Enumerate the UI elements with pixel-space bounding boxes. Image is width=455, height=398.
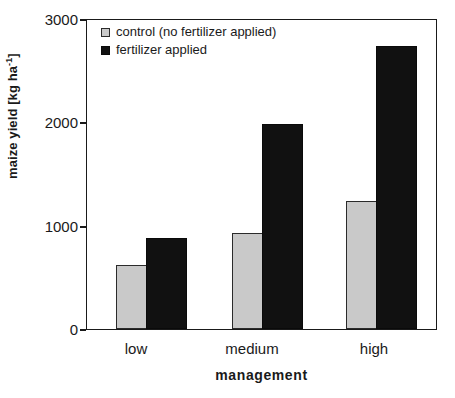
bar-fertilizer-medium [262, 124, 303, 329]
y-axis-title-base: maize yield [kg ha [5, 66, 20, 179]
legend-label-control: control (no fertilizer applied) [116, 24, 276, 40]
y-tick-label-1000: 1000 [14, 218, 78, 235]
x-tick-label-low: low [96, 340, 176, 357]
plot-frame [86, 19, 437, 330]
legend-swatch-fertilizer-icon [101, 46, 110, 55]
y-tick-label-0: 0 [14, 321, 78, 338]
x-tick-label-high: high [334, 340, 414, 357]
legend-swatch-control-icon [101, 28, 110, 37]
x-axis-title: management [86, 367, 437, 383]
y-axis-title-tail: ] [5, 53, 20, 57]
chart-legend: control (no fertilizer applied) fertiliz… [101, 24, 276, 60]
bar-fertilizer-high [376, 46, 417, 329]
plot-area [87, 20, 436, 329]
y-axis-title: maize yield [kg ha-1] [4, 6, 20, 226]
legend-label-fertilizer: fertilizer applied [116, 42, 207, 58]
y-axis-title-exponent: -1 [4, 58, 14, 66]
y-tick-label-2000: 2000 [14, 114, 78, 131]
x-tick-label-medium: medium [212, 340, 292, 357]
bar-fertilizer-low [146, 238, 187, 329]
legend-item-control: control (no fertilizer applied) [101, 24, 276, 40]
y-tick-label-3000: 3000 [14, 11, 78, 28]
chart-figure: 3000 2000 1000 0 maize yield [kg ha-1] c… [0, 0, 455, 398]
legend-item-fertilizer: fertilizer applied [101, 42, 276, 58]
